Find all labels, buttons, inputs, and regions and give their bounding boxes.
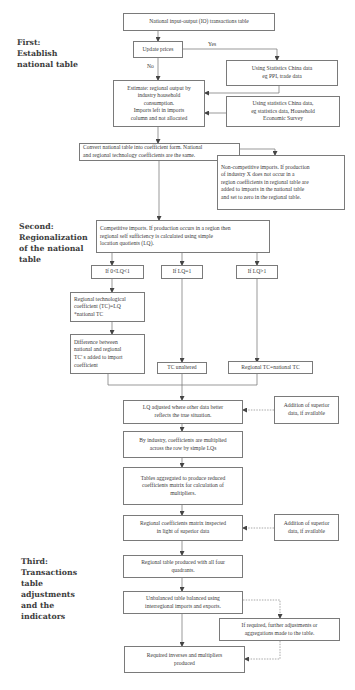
node-regional-technological-coefficient: Regional technological coefficient (TC)=… xyxy=(70,292,145,322)
node-coefficients-inspected: Regional coefficients matrix inspected i… xyxy=(123,515,243,541)
node-lq-equals-one: If LQ=1 xyxy=(161,265,203,279)
node-difference-to-imports: Difference between national and regional… xyxy=(70,334,145,374)
node-superior-data-1: Addition of superior data, if available xyxy=(274,396,339,424)
node-inverses-multipliers: Required inverses and multipliers produc… xyxy=(124,646,245,673)
stage-label-second: Second: Regionalization of the national … xyxy=(19,221,88,265)
node-regional-table-produced: Regional table produced with all four qu… xyxy=(123,555,243,578)
node-competitive-imports: Competitive imports. If production occur… xyxy=(96,220,270,253)
node-lq-greater-than-one: If LQ>1 xyxy=(236,265,278,279)
edge-label-yes: Yes xyxy=(208,41,216,47)
node-national-io-table: National input-output (IO) transactions … xyxy=(123,13,275,31)
node-lq-adjusted: LQ adjusted where other data better refl… xyxy=(123,400,243,424)
node-non-competitive-imports: Non-competitive imports. If production o… xyxy=(217,155,345,210)
stage-label-first: First: Establish national table xyxy=(17,37,78,70)
flowchart: First: Establish national table Second: … xyxy=(0,0,355,690)
node-regional-tc-equals-national: Regional TC=national TC xyxy=(228,361,313,374)
node-superior-data-2: Addition of superior data, if available xyxy=(274,514,339,541)
node-stats-household-survey: Using statistics China data, eg statisti… xyxy=(226,96,340,127)
node-lq-less-than-one: If 0<LQ<1 xyxy=(91,265,144,279)
node-unbalanced-table: Unbalanced table balanced using interreg… xyxy=(123,591,243,614)
node-stats-ppi-data: Using Statistics China data eg PPI, trad… xyxy=(226,60,338,86)
edge-label-no: No xyxy=(147,63,154,69)
stage-label-third: Third: Transactions table adjustments an… xyxy=(21,556,77,622)
node-tables-aggregated: Tables aggregated to produce reduced coe… xyxy=(123,467,243,505)
node-tc-unaltered: TC unaltered xyxy=(157,362,207,374)
node-update-prices: Update prices xyxy=(133,41,183,58)
node-by-industry-multiplied: By industry, coefficients are multiplied… xyxy=(123,431,243,458)
node-estimate-regional-output: Estimate: regional output by industry ho… xyxy=(113,80,205,127)
node-convert-coefficient-form: Convert national table into coefficient … xyxy=(79,143,240,161)
node-further-adjustments: If required, further adjustments or aggr… xyxy=(219,618,340,641)
